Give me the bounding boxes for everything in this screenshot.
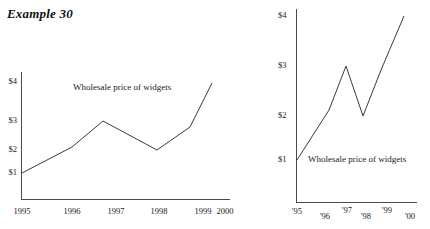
tall-aspect-chart: $4 $3 $2 $1 '95 '96 '97 '98 '99 '00 Whol… (240, 0, 430, 229)
wide-chart-xtick-5: 2000 (208, 207, 242, 216)
tall-chart-ytick-0: $4 (278, 11, 287, 20)
wide-chart-ytick-3: $1 (1, 168, 17, 177)
tall-chart-xtick-0: '95 (287, 207, 307, 216)
wide-chart-xtick-0: 1995 (5, 207, 39, 216)
wide-chart-xtick-3: 1998 (142, 207, 176, 216)
tall-chart-ytick-3: $1 (278, 155, 287, 164)
wide-chart-xtick-1: 1996 (55, 207, 89, 216)
tall-chart-ytick-1: $3 (278, 61, 287, 70)
tall-chart-xtick-3: '98 (356, 212, 376, 221)
wide-chart-canvas (0, 0, 240, 229)
wide-chart-series-line (22, 83, 212, 173)
wide-aspect-chart: $4 $3 $2 $1 1995 1996 1997 1998 1999 200… (0, 0, 240, 229)
tall-chart-xtick-1: '96 (315, 212, 335, 221)
wide-chart-xtick-2: 1997 (99, 207, 133, 216)
tall-chart-ytick-2: $2 (278, 111, 287, 120)
tall-chart-series-line (297, 16, 404, 160)
tall-chart-xtick-4: '99 (377, 206, 397, 215)
tall-chart-caption: Wholesale price of widgets (308, 155, 406, 164)
tall-chart-xtick-5: '00 (400, 212, 420, 221)
wide-chart-caption: Wholesale price of widgets (73, 83, 171, 92)
wide-chart-ytick-1: $3 (1, 116, 17, 125)
wide-chart-ytick-0: $4 (1, 77, 17, 86)
figure-page: Example 30 $4 $3 $2 $1 1995 1996 1997 19… (0, 0, 430, 229)
tall-chart-xtick-2: '97 (337, 206, 357, 215)
wide-chart-ytick-2: $2 (1, 145, 17, 154)
tall-chart-canvas (240, 0, 430, 229)
